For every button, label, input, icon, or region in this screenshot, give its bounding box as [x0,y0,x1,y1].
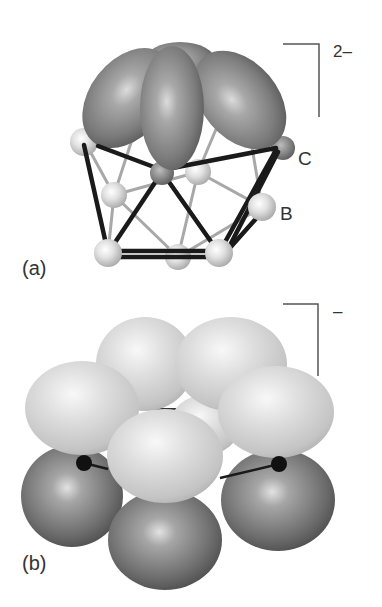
carbon-atom [271,456,287,472]
boron-atom [205,239,233,267]
charge-label-b: – [333,303,342,320]
boron-atom [94,239,122,267]
atom-label-carbon: C [298,149,312,168]
panel-label-a: (a) [22,258,46,278]
charge-bracket [283,304,318,376]
molecular-orbital-figure [0,0,382,607]
boron-atom [101,182,127,208]
panel-label-b: (b) [22,553,46,573]
orbital-lobe-dark-bottom [108,490,222,590]
carbon-atom [76,455,92,471]
boron-atom [248,193,276,221]
orbital-lobe-light-right [218,366,334,458]
panel-a [64,30,319,270]
charge-bracket [283,44,319,117]
charge-label-a: 2– [333,43,352,60]
panel-b [21,304,335,590]
orbital-lobe-light-front [107,409,223,503]
orbital-lobe-center [140,46,204,170]
atom-label-boron: B [280,204,293,223]
